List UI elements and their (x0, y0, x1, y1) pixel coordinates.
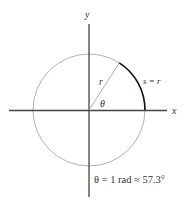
arc-label: s = r (143, 76, 161, 86)
angle-label: θ (100, 98, 105, 109)
y-axis-label: y (84, 9, 90, 20)
radius-label: r (99, 77, 103, 87)
diagram-svg: y x r s = r θ θ = 1 rad ≈ 57.3° (0, 0, 191, 205)
radian-diagram: y x r s = r θ θ = 1 rad ≈ 57.3° (0, 0, 191, 205)
arc-s (119, 63, 145, 110)
x-axis-label: x (171, 105, 177, 116)
caption: θ = 1 rad ≈ 57.3° (94, 174, 165, 185)
